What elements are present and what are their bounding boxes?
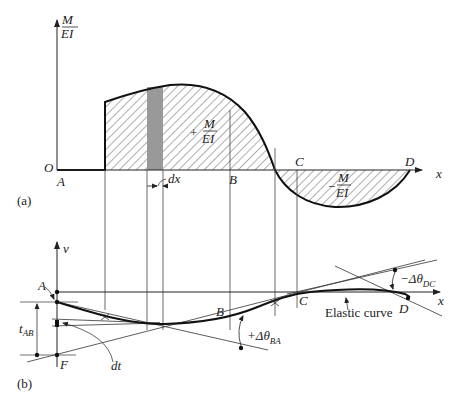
- negative-area-den: EI: [335, 185, 349, 200]
- dt-segment: [55, 320, 59, 327]
- point-d-label-b: D: [398, 301, 409, 316]
- negative-area-num: M: [337, 170, 350, 185]
- dx-leader: [158, 179, 166, 186]
- angle-ba-label: +ΔθBA: [247, 328, 281, 346]
- angle-dc-point: [393, 268, 397, 272]
- point-f-label: F: [59, 357, 69, 372]
- v-axis-label: v: [63, 241, 69, 256]
- point-b-label-b: B: [216, 304, 224, 319]
- y-axis-label-den: EI: [60, 26, 74, 41]
- panel-b-elastic-curve: v A B C D F x tAB dt +ΔθBA −ΔθDC Elastic…: [17, 241, 444, 391]
- x-axis-label-a: x: [435, 166, 442, 181]
- panel-a-moment-diagram: M EI O A B C D x + M EI − M EI dx (a): [17, 12, 442, 208]
- positive-area-num: M: [203, 116, 216, 131]
- point-a: [55, 300, 59, 304]
- y-axis-label-num: M: [61, 12, 74, 27]
- elastic-curve-label: Elastic curve: [325, 305, 393, 320]
- point-f: [55, 353, 59, 357]
- point-c-label: C: [295, 154, 304, 169]
- origin-label: O: [44, 160, 54, 175]
- t-ab-label: tAB: [19, 321, 34, 338]
- panel-a-label: (a): [17, 193, 31, 208]
- positive-area-den: EI: [201, 131, 215, 146]
- angle-dc-arc: [392, 272, 395, 289]
- a-leader: [45, 287, 54, 299]
- point-d: [406, 296, 410, 300]
- negative-sign: −: [328, 179, 335, 194]
- point-a-label-b: A: [37, 278, 46, 293]
- angle-ba-point: [239, 346, 243, 350]
- moment-area-diagram: M EI O A B C D x + M EI − M EI dx (a): [0, 0, 458, 404]
- differential-strip: [147, 87, 163, 170]
- dx-label: dx: [168, 171, 181, 186]
- point-origin: [55, 290, 59, 294]
- tangent-at-a: [57, 302, 268, 350]
- angle-dc-label: −ΔθDC: [400, 271, 436, 289]
- point-d-label: D: [404, 154, 415, 169]
- x-axis-label-b: x: [437, 293, 444, 308]
- panel-b-label: (b): [17, 376, 32, 391]
- t-ab-base: [35, 353, 39, 357]
- angle-ba-arc: [239, 316, 243, 346]
- dt-label: dt: [111, 358, 122, 373]
- positive-sign: +: [190, 125, 197, 140]
- point-a-label: A: [56, 174, 65, 189]
- dt-leader: [63, 323, 113, 362]
- point-c-label-b: C: [299, 293, 308, 308]
